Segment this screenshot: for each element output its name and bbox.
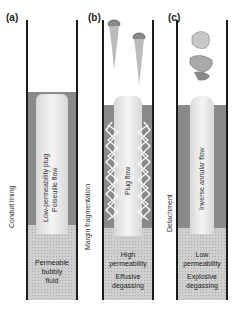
detached-fragment-icon [190, 31, 212, 80]
ejected-fragment-icon [108, 20, 120, 70]
fracture-zigzag-icon [106, 122, 150, 220]
diagram-decorations [0, 0, 236, 309]
ejected-fragment-icon [133, 33, 145, 85]
